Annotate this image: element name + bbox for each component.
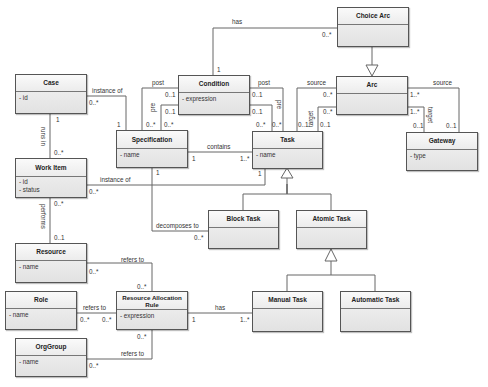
class-attributes	[253, 309, 322, 313]
attribute: - name	[120, 151, 184, 159]
class-name: OrgGroup	[16, 339, 86, 356]
multiplicity: 1	[156, 169, 160, 176]
multiplicity: 0..1	[54, 234, 65, 241]
multiplicity: 0..*	[137, 283, 146, 290]
multiplicity: 0..*	[323, 91, 332, 98]
attribute: - expression	[182, 95, 246, 103]
gen-triangle-arc	[366, 65, 378, 76]
class-attributes: - name	[16, 261, 86, 273]
multiplicity: 0..1	[446, 122, 457, 129]
multiplicity: 0..*	[89, 362, 98, 369]
attribute: - id	[19, 178, 83, 186]
class-orggroup[interactable]: OrgGroup - name	[15, 338, 87, 377]
attribute: - status	[19, 186, 83, 194]
attribute: - name	[19, 263, 83, 271]
multiplicity: 0..*	[164, 121, 173, 128]
assoc-label: source	[433, 79, 452, 86]
multiplicity: 0..*	[54, 149, 63, 156]
multiplicity: 1	[192, 155, 196, 162]
multiplicity: 0..*	[137, 333, 146, 340]
attribute: - name	[19, 358, 83, 366]
class-role[interactable]: Role - name	[5, 291, 77, 330]
class-attributes	[338, 25, 408, 29]
assoc-label: contains	[207, 143, 230, 150]
gen-triangle-task	[281, 168, 293, 178]
multiplicity: 0..*	[80, 316, 89, 323]
multiplicity: 1	[117, 121, 121, 128]
class-gateway[interactable]: Gateway - type	[406, 132, 478, 171]
class-resource-allocation-rule[interactable]: Resource Allocation Rule - expression	[116, 291, 188, 330]
multiplicity: 0..*	[102, 316, 111, 323]
class-attributes: - name	[16, 356, 86, 368]
class-attributes: - expression	[179, 93, 249, 105]
class-name: Manual Task	[253, 292, 322, 309]
gen-atomic-children	[287, 275, 375, 291]
assoc-label: target	[427, 107, 434, 123]
assoc-label: source	[307, 79, 326, 86]
multiplicity: 0..1	[165, 91, 176, 98]
class-attributes	[337, 94, 407, 98]
assoc-label: has	[232, 18, 242, 25]
class-name: Role	[6, 292, 76, 309]
class-attributes: - name	[253, 149, 322, 161]
class-name: Atomic Task	[297, 211, 366, 228]
class-attributes: - id - status	[16, 177, 86, 195]
class-name: Work Item	[16, 159, 86, 177]
gen-triangle-atomic	[325, 249, 337, 261]
class-name: Resource Allocation Rule	[117, 292, 187, 310]
class-name: Choice Arc	[338, 8, 408, 25]
multiplicity: 0..*	[54, 200, 63, 207]
multiplicity: 1..*	[410, 91, 419, 98]
assoc-label: post	[152, 79, 164, 86]
class-name: Gateway	[407, 133, 477, 150]
class-automatic-task[interactable]: Automatic Task	[340, 291, 411, 332]
class-attributes: - expression	[117, 310, 187, 322]
assoc-label: has	[215, 304, 225, 311]
assoc-label: post	[258, 79, 270, 86]
class-name: Case	[16, 75, 86, 92]
assoc-label: target	[307, 111, 314, 127]
class-manual-task[interactable]: Manual Task	[252, 291, 323, 332]
attribute: - name	[256, 151, 319, 159]
class-name: Arc	[337, 77, 407, 94]
class-name: Specification	[117, 131, 187, 149]
multiplicity: 1	[258, 170, 262, 177]
class-condition[interactable]: Condition - expression	[178, 75, 250, 115]
class-case[interactable]: Case - id	[15, 74, 87, 114]
class-block-task[interactable]: Block Task	[208, 210, 279, 249]
class-work-item[interactable]: Work Item - id - status	[15, 158, 87, 198]
assoc-label: pre	[149, 103, 156, 112]
multiplicity: 0..*	[89, 188, 98, 195]
assoc-label: decomposes to	[156, 222, 199, 229]
class-name: Condition	[179, 76, 249, 93]
multiplicity: 0..1	[252, 108, 263, 115]
multiplicity: 1	[217, 66, 221, 73]
class-choice-arc[interactable]: Choice Arc	[337, 7, 409, 47]
class-attributes	[209, 228, 278, 232]
assoc-label: refers to	[83, 304, 106, 311]
multiplicity: 0..1	[320, 121, 331, 128]
class-name: Resource	[16, 244, 86, 261]
class-atomic-task[interactable]: Atomic Task	[296, 210, 367, 249]
multiplicity: 0..*	[89, 268, 98, 275]
assoc-label: instance of	[92, 87, 122, 94]
multiplicity: 1	[56, 116, 60, 123]
class-attributes	[297, 228, 366, 232]
attribute: - type	[410, 152, 474, 160]
multiplicity: 0..*	[322, 31, 331, 38]
class-attributes: - type	[407, 150, 477, 162]
class-resource[interactable]: Resource - name	[15, 243, 87, 283]
multiplicity: 0..*	[323, 108, 332, 115]
class-arc[interactable]: Arc	[336, 76, 408, 115]
class-attributes: - name	[6, 309, 76, 321]
class-attributes: - id	[16, 92, 86, 104]
class-name: Block Task	[209, 211, 278, 228]
multiplicity: 1	[192, 316, 196, 323]
assoc-label: pre	[276, 100, 283, 109]
multiplicity: 0..*	[272, 121, 281, 128]
attribute: - expression	[120, 312, 184, 320]
class-attributes	[341, 309, 410, 313]
class-attributes: - name	[117, 149, 187, 161]
class-task[interactable]: Task - name	[252, 131, 323, 169]
class-specification[interactable]: Specification - name	[116, 130, 188, 168]
